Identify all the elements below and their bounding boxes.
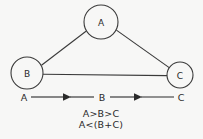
- arrow-head-a-b: [63, 93, 71, 101]
- edge-a-to-c: [116, 30, 169, 68]
- node-c[interactable]: C: [167, 62, 193, 88]
- formula-line-2: A<(B+C): [79, 119, 123, 130]
- sequence-label-a: A: [21, 92, 28, 103]
- edge-b-to-c: [43, 74, 167, 75]
- formula-line-1: A>B>C: [83, 108, 120, 119]
- node-a-label: A: [98, 18, 105, 28]
- sequence-row: A B C: [21, 92, 185, 103]
- sequence-arrow-b-to-c: [110, 93, 174, 101]
- node-c-label: C: [177, 71, 183, 81]
- node-b-label: B: [24, 69, 30, 79]
- sequence-label-b: B: [99, 92, 106, 103]
- edge-b-to-a: [42, 31, 87, 65]
- node-b[interactable]: B: [11, 57, 43, 89]
- triangle-edges: [42, 30, 170, 76]
- arrow-head-b-c: [134, 93, 142, 101]
- node-a[interactable]: A: [84, 5, 118, 39]
- diagram-canvas: A B C B --> C --> A B C: [0, 0, 203, 139]
- sequence-label-c: C: [178, 92, 185, 103]
- formula-block: A>B>C A<(B+C): [79, 108, 123, 130]
- sequence-arrow-a-to-b: [31, 93, 94, 101]
